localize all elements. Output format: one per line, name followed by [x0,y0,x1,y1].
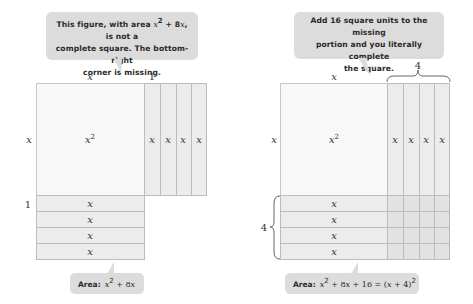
unit-square [387,211,404,228]
right-hstrip-label-1: x [331,198,337,209]
right-hstrip-label-3: x [331,230,337,241]
unit-square [403,211,420,228]
left-hstrip-label-4: x [87,246,93,257]
left-side-label-1: 1 [25,199,31,210]
top-brace-icon [386,69,452,83]
right-area-label: Area:x2 + 8x + 16 = (x + 4)2 [285,273,419,294]
unit-square [419,211,435,228]
left-vstrip-label-4: x [196,134,202,145]
left-area-label: Area:x2 + 8x [70,273,144,294]
right-callout-line1: Add 16 square units to the missing [300,15,438,39]
left-square-label: x2 [85,133,95,145]
left-callout: This figure, with area x2 + 8x, is not a… [46,12,198,60]
left-hstrip-label-2: x [87,214,93,225]
left-callout-line1: This figure, with area x2 + 8x, is not a [52,15,192,43]
left-top-label-1: 1 [149,71,155,82]
right-hstrip-label-2: x [331,214,337,225]
unit-square [434,227,450,244]
unit-square [434,243,450,260]
unit-square [419,243,435,260]
unit-square [387,227,404,244]
right-vstrip-label-2: x [408,134,414,145]
right-vstrip-label-3: x [423,134,429,145]
unit-square [403,243,420,260]
left-side-label-x: x [26,134,32,145]
unit-square [434,195,450,212]
unit-square [387,243,404,260]
right-callout: Add 16 square units to the missing porti… [294,12,444,59]
unit-square [419,227,435,244]
right-hstrip-label-4: x [331,246,337,257]
left-vstrip-label-1: x [149,134,155,145]
left-hstrip-label-1: x [87,198,93,209]
left-top-label-x: x [87,71,93,82]
left-vstrip-label-2: x [165,134,171,145]
right-square-label: x2 [329,133,339,145]
right-callout-pointer [358,58,372,78]
unit-square [403,195,420,212]
unit-square [419,195,435,212]
unit-square [387,195,404,212]
left-hstrip-label-3: x [87,230,93,241]
right-side-label-x: x [271,134,277,145]
left-callout-pointer [112,59,126,75]
right-vstrip-label-4: x [439,134,445,145]
right-vstrip-label-1: x [392,134,398,145]
right-top-label-x: x [331,71,337,82]
left-vstrip-label-3: x [180,134,186,145]
right-side-brace-label: 4 [261,222,267,233]
unit-square [434,211,450,228]
unit-square [403,227,420,244]
